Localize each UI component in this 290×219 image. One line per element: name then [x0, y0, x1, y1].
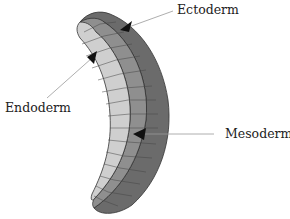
- ectoderm-label: Ectoderm: [177, 4, 239, 17]
- mesoderm-label: Mesoderm: [225, 128, 290, 141]
- endoderm-pointer: [47, 51, 97, 98]
- ectoderm-pointer: [120, 11, 173, 32]
- ectoderm-leader-line: [126, 11, 173, 28]
- endoderm-leader-line: [47, 58, 92, 98]
- endoderm-label: Endoderm: [5, 102, 71, 115]
